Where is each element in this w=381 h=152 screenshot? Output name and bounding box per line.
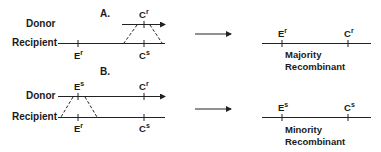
panel-a-donor-marker-c: Cr <box>139 10 149 20</box>
panel-b-result-caption: Minority Recombinant <box>285 124 345 148</box>
panel-a-recipient-marker-e: Er <box>74 51 83 61</box>
panel-a-donor-label: Donor <box>26 19 55 29</box>
panel-a-crossover-left <box>124 25 137 43</box>
panel-b-donor-marker-e: Es <box>74 82 84 92</box>
panel-b-donor-label: Donor <box>26 91 55 101</box>
panel-a-recipient-label: Recipient <box>12 38 57 48</box>
panel-b-donor-marker-c: Cr <box>139 82 149 92</box>
panel-a-result-marker-e: Er <box>278 29 287 39</box>
panel-b-label: B. <box>100 67 110 77</box>
panel-b-crossover-left <box>61 97 73 117</box>
panel-b-crossover-right <box>85 97 97 117</box>
majority-label: Majority <box>285 49 345 61</box>
panel-a-label: A. <box>100 9 110 19</box>
panel-b-result-marker-e: Es <box>278 103 288 113</box>
panel-b-result-marker-c: Cs <box>344 103 355 113</box>
recombinant-label: Recombinant <box>285 136 345 148</box>
panel-a-result-marker-c: Cr <box>344 29 354 39</box>
panel-a-crossover-right <box>150 25 162 43</box>
panel-b-recipient-marker-e: Er <box>74 124 83 134</box>
recombinant-label: Recombinant <box>285 61 345 73</box>
panel-b-recipient-label: Recipient <box>12 112 57 122</box>
panel-b-recipient-marker-c: Cs <box>139 124 150 134</box>
minority-label: Minority <box>285 124 345 136</box>
panel-a-result-caption: Majority Recombinant <box>285 49 345 73</box>
panel-a-recipient-marker-c: Cs <box>139 51 150 61</box>
